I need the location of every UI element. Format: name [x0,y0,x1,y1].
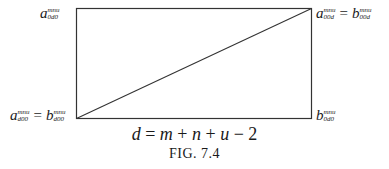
symbol-b: bmnu0d0 [316,108,336,124]
formula-lhs: d [132,124,141,144]
symbol-b: bmnu00d [352,6,372,22]
formula-equals: = [145,124,155,144]
formula-term: 2 [248,124,257,144]
formula: d = m + n + u − 2 [0,124,389,145]
symbol-a: amnud00 [10,108,30,124]
corner-label-top-left: amnu0d0 [40,6,60,22]
figure-7-4: amnu0d0 amnu00d=bmnu00d amnud00=bmnud00 … [0,0,389,169]
formula-term: u [220,124,229,144]
formula-operator: + [206,124,216,144]
equals-sign: = [34,107,42,123]
figure-caption: FIG. 7.4 [0,146,389,162]
formula-term: n [192,124,201,144]
symbol-b: bmnud00 [46,108,66,124]
symbol-a: amnu00d [316,6,336,22]
symbol-a: amnu0d0 [40,6,60,22]
corner-label-top-right: amnu00d=bmnu00d [316,6,372,22]
diagonal-line [77,9,312,119]
formula-operator: − [234,124,244,144]
corner-label-bottom-right: bmnu0d0 [316,108,336,124]
equals-sign: = [340,5,348,21]
formula-term: m [160,124,173,144]
corner-label-bottom-left: amnud00=bmnud00 [10,108,66,124]
formula-operator: + [177,124,187,144]
